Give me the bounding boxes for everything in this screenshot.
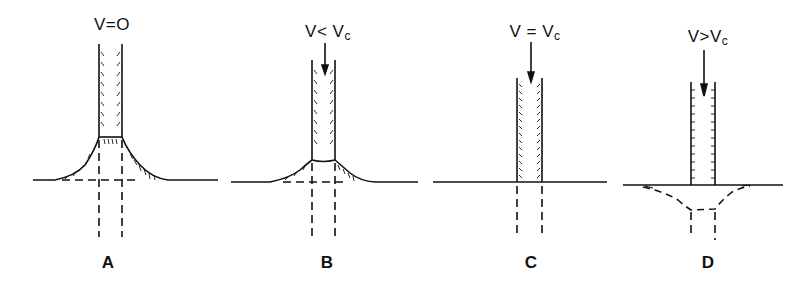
velocity-arrow [701,50,707,96]
condition-subscript: c [554,29,561,43]
condition-text: V=O [94,15,130,34]
velocity-arrow [528,42,534,82]
condition-label-d: V>Vc [688,27,729,48]
panel-a [33,44,218,237]
panel-d [623,50,783,240]
meniscus-hatching [65,139,155,180]
panel-label-a: A [102,253,114,273]
condition-text: V = V [509,22,554,41]
condition-subscript: c [344,29,351,43]
meniscus-profile [231,160,418,182]
meniscus-top [312,160,335,162]
tube-hatching [519,84,540,178]
panel-label-c: C [525,253,537,273]
velocity-arrow [322,43,328,74]
depression-profile-dashed [643,186,750,210]
condition-label-b: V< Vc [305,22,351,43]
tube-hatching [314,70,333,144]
panel-label-d: D [702,253,714,273]
condition-text: V< V [305,22,344,41]
condition-text: V>V [688,27,722,46]
condition-label-c: V = Vc [509,22,560,43]
condition-label-a: V=O [94,15,130,36]
panel-label-b: B [321,253,333,273]
condition-subscript: c [722,34,729,48]
meniscus-profile [33,137,218,180]
tube-hatching [101,52,120,126]
panel-b [231,43,418,237]
panel-c [433,42,607,236]
tube-hatching [691,90,715,178]
